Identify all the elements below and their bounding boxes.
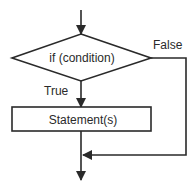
flowchart-canvas: [0, 0, 195, 188]
statement-label: Statement(s): [49, 114, 118, 126]
condition-label: if (condition): [49, 52, 114, 64]
false-branch-label: False: [153, 39, 182, 51]
true-branch-label: True: [44, 85, 68, 97]
